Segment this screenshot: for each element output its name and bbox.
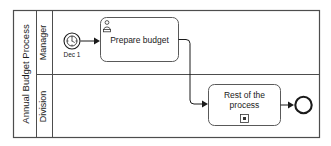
lane-label-division: Division <box>38 91 48 123</box>
end-event-circle <box>295 97 311 113</box>
end-event[interactable] <box>295 97 311 113</box>
task-label: Prepare budget <box>110 35 169 45</box>
task-prepare-budget[interactable]: Prepare budget <box>101 18 179 62</box>
timer-start-event[interactable] <box>64 33 80 49</box>
subprocess-label-line1: Rest of the <box>224 90 265 100</box>
bpmn-diagram-svg: Annual Budget Process Manager Division D… <box>0 0 331 146</box>
lane-label-manager: Manager <box>38 25 48 61</box>
subprocess-rest-of-the-process[interactable]: Rest of the process <box>209 85 281 126</box>
bpmn-diagram-canvas: Annual Budget Process Manager Division D… <box>0 0 331 146</box>
subprocess-label-line2: process <box>230 100 260 110</box>
start-event-label: Dec 1 <box>64 51 81 58</box>
pool-title-label: Annual Budget Process <box>20 24 31 124</box>
